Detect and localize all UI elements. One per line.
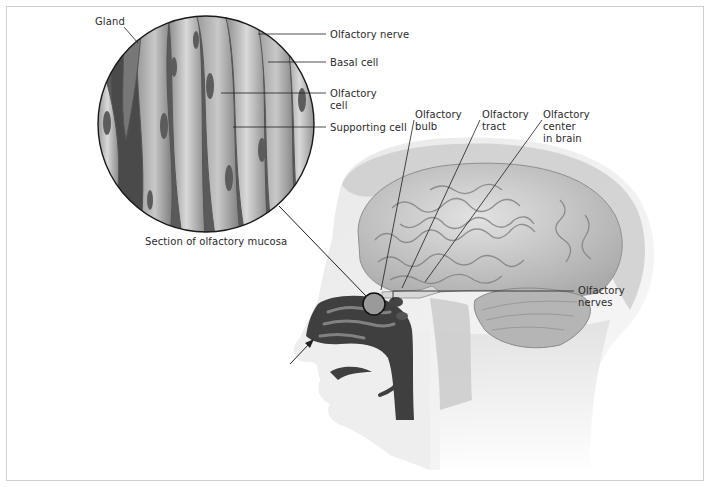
label-olfactory-bulb: Olfactory bulb [415, 109, 462, 133]
label-olfactory-cell: Olfactory cell [330, 88, 377, 112]
inset-caption: Section of olfactory mucosa [145, 236, 287, 248]
olfactory-illustration [0, 0, 711, 487]
label-gland: Gland [95, 16, 125, 28]
label-olfactory-nerves: Olfactory nerves [578, 285, 625, 309]
label-supporting-cell: Supporting cell [330, 122, 407, 134]
mucosa-location-marker [363, 293, 385, 315]
label-olfactory-tract: Olfactory tract [482, 109, 529, 133]
label-basal-cell: Basal cell [330, 57, 379, 69]
label-olfactory-nerve: Olfactory nerve [330, 29, 409, 41]
label-olfactory-center: Olfactory center in brain [543, 109, 590, 145]
